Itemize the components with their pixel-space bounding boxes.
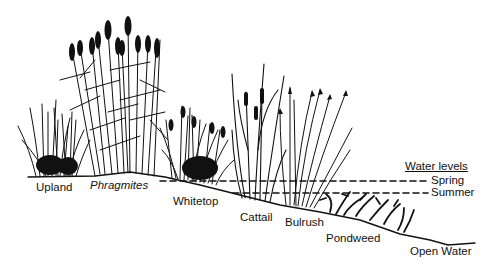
zone-label-pondweed: Pondweed <box>326 233 380 245</box>
bulrush-plants <box>280 88 352 208</box>
pondweed-plants <box>320 192 414 232</box>
legend-title: Water levels <box>405 161 468 173</box>
zone-label-cattail: Cattail <box>240 212 273 224</box>
legend-spring: Spring <box>431 175 464 187</box>
zone-label-phragmites: Phragmites <box>90 180 148 192</box>
zone-label-bulrush: Bulrush <box>285 217 324 229</box>
phragmites-plumes <box>69 16 160 61</box>
legend-summer: Summer <box>431 187 474 199</box>
wetland-illustration <box>0 0 489 269</box>
zone-label-whitetop: Whitetop <box>173 196 218 208</box>
zone-label-open-water: Open Water <box>410 246 472 258</box>
zone-label-upland: Upland <box>36 182 72 194</box>
phragmites-reeds <box>60 22 168 176</box>
